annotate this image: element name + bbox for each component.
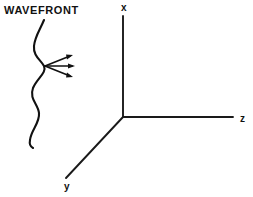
ray-middle-arrowhead xyxy=(68,64,75,69)
ray-lower-line xyxy=(45,66,70,76)
ray-upper-line xyxy=(45,56,70,66)
diagram-canvas: WAVEFRONT x y z xyxy=(0,0,253,197)
wavefront-text-label: WAVEFRONT xyxy=(4,4,79,16)
ray-upper-arrowhead xyxy=(66,55,73,60)
wavefront-coordinate-diagram: WAVEFRONT x y z xyxy=(0,0,253,197)
axes-group xyxy=(66,16,233,178)
wavefront-curve xyxy=(30,20,45,148)
y-axis-line xyxy=(66,117,123,178)
ray-group xyxy=(45,55,75,78)
ray-lower-arrowhead xyxy=(66,73,73,78)
y-axis-label: y xyxy=(64,181,70,192)
z-axis-label: z xyxy=(240,113,245,124)
x-axis-label: x xyxy=(121,2,127,13)
